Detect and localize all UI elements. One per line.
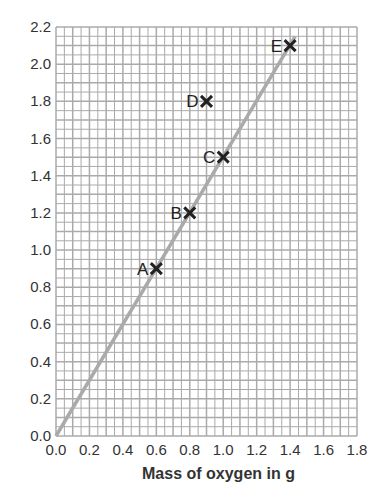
x-tick-label: 0.2: [79, 441, 100, 458]
y-tick-label: 2.0: [30, 55, 51, 72]
x-tick-label: 1.4: [280, 441, 301, 458]
point-label: C: [203, 148, 215, 167]
best-fit-line: [56, 36, 295, 436]
y-tick-label: 0.6: [30, 315, 51, 332]
point-label: B: [170, 204, 181, 223]
y-tick-label: 2.2: [30, 18, 51, 35]
x-tick-label: 0.8: [179, 441, 200, 458]
y-tick-label: 1.0: [30, 241, 51, 258]
x-tick-label: 1.6: [313, 441, 334, 458]
y-tick-label: 1.4: [30, 167, 51, 184]
y-tick-label: 0.0: [30, 427, 51, 444]
x-tick-label: 1.2: [246, 441, 267, 458]
chart: 0.00.20.40.60.81.01.21.41.61.80.00.20.40…: [0, 0, 382, 496]
x-tick-label: 0.4: [112, 441, 133, 458]
y-tick-label: 0.4: [30, 353, 51, 370]
point-label: E: [271, 37, 282, 56]
y-tick-label: 1.6: [30, 130, 51, 147]
x-axis-label: Mass of oxygen in g: [142, 465, 295, 482]
y-tick-label: 1.2: [30, 204, 51, 221]
x-tick-label: 0.6: [146, 441, 167, 458]
point-label: A: [137, 260, 149, 279]
x-tick-label: 1.8: [347, 441, 368, 458]
y-tick-label: 0.8: [30, 278, 51, 295]
x-tick-label: 1.0: [213, 441, 234, 458]
y-tick-label: 0.2: [30, 390, 51, 407]
point-label: D: [186, 92, 198, 111]
y-tick-label: 1.8: [30, 92, 51, 109]
